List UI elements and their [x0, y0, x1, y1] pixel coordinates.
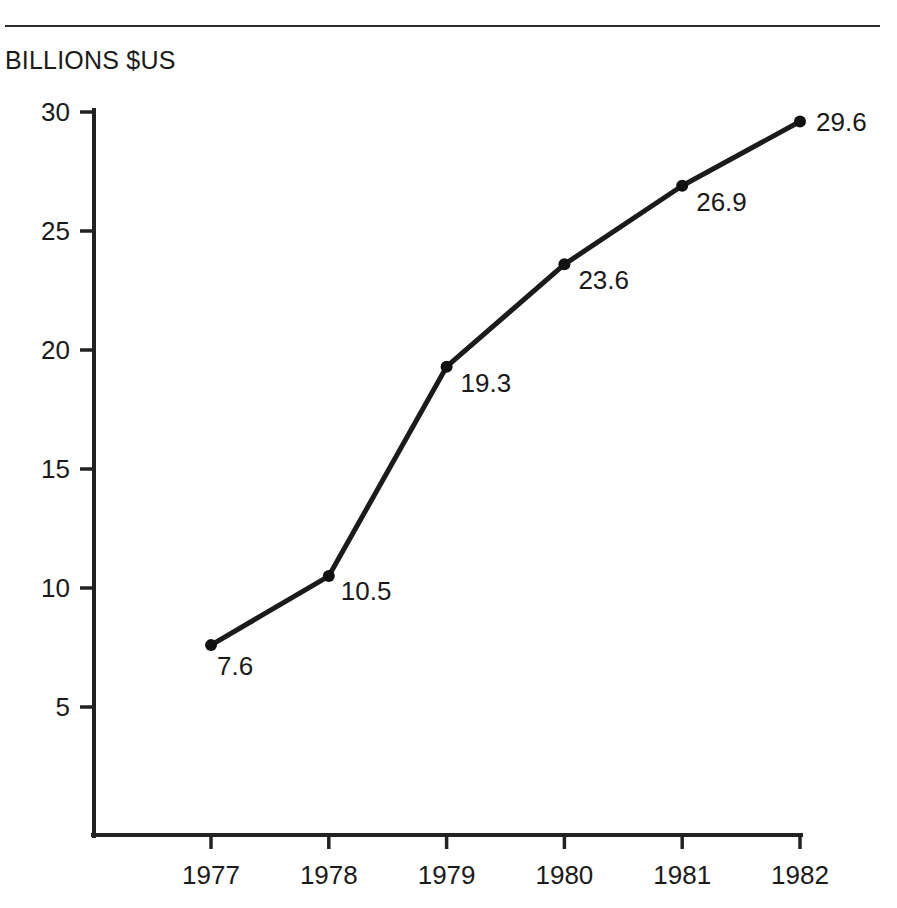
x-tick-label: 1977	[182, 860, 240, 890]
line-chart: 51015202530 197719781979198019811982 7.6…	[0, 0, 897, 908]
x-tick-label: 1978	[300, 860, 358, 890]
x-axis-ticks: 197719781979198019811982	[182, 835, 829, 890]
x-tick-label: 1982	[771, 860, 829, 890]
axes	[93, 110, 801, 836]
data-point-marker	[676, 180, 688, 192]
y-tick-label: 20	[41, 335, 70, 365]
y-tick-label: 10	[41, 573, 70, 603]
y-tick-label: 30	[41, 97, 70, 127]
y-tick-label: 15	[41, 454, 70, 484]
data-point-marker	[441, 361, 453, 373]
data-point-marker	[205, 639, 217, 651]
data-point-marker	[794, 116, 806, 128]
data-point-marker	[558, 258, 570, 270]
data-point-value-label: 23.6	[578, 265, 629, 295]
data-point-value-label: 7.6	[217, 651, 253, 681]
y-axis-ticks: 51015202530	[41, 97, 94, 722]
data-point-value-label: 19.3	[461, 368, 512, 398]
y-tick-label: 25	[41, 216, 70, 246]
data-point-value-label: 10.5	[341, 576, 392, 606]
x-tick-label: 1981	[653, 860, 711, 890]
data-point-value-label: 29.6	[816, 107, 867, 137]
data-point-marker	[323, 570, 335, 582]
chart-page: BILLIONS $US 51015202530 197719781979198…	[0, 0, 897, 908]
data-point-labels: 7.610.519.323.626.929.6	[217, 107, 867, 682]
y-tick-label: 5	[56, 692, 70, 722]
data-point-value-label: 26.9	[696, 187, 747, 217]
x-tick-label: 1979	[418, 860, 476, 890]
x-tick-label: 1980	[535, 860, 593, 890]
